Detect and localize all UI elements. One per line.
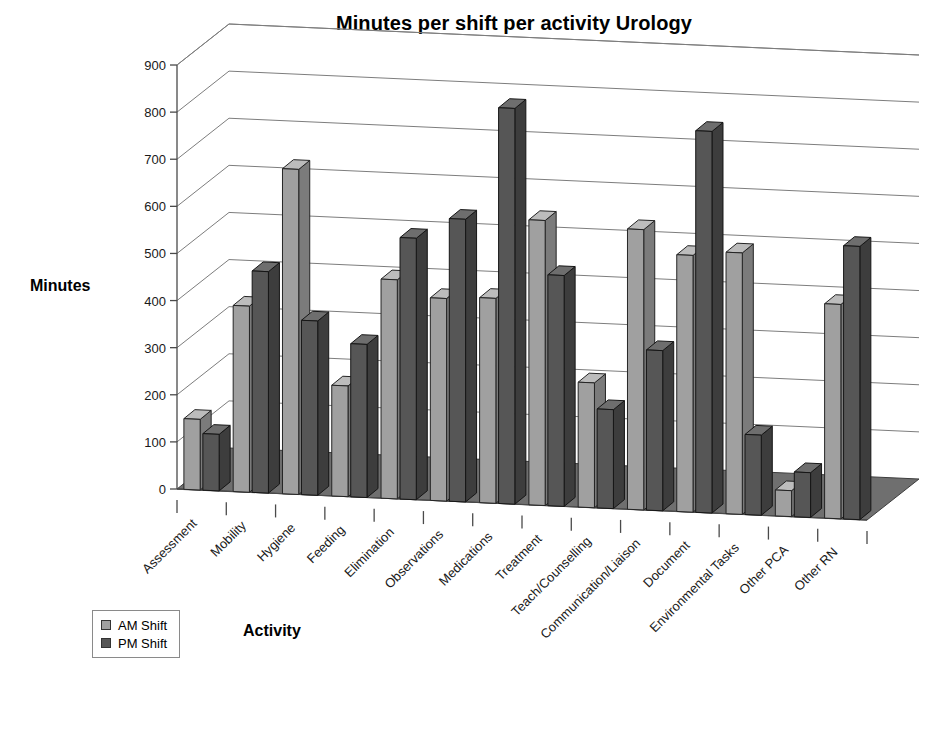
- y-tick-labels: 0100200300400500600700800900: [144, 58, 166, 497]
- bar-pm: [351, 335, 378, 498]
- category-label: Feeding: [304, 522, 348, 566]
- chart-legend: AM Shift PM Shift: [92, 610, 180, 658]
- category-label: Mobility: [207, 517, 249, 559]
- svg-text:500: 500: [144, 246, 166, 261]
- svg-text:900: 900: [144, 58, 166, 73]
- category-label: Communication/Liaison: [537, 536, 643, 642]
- svg-text:800: 800: [144, 105, 166, 120]
- bar-pm: [400, 229, 427, 500]
- bar-pm: [745, 425, 772, 515]
- bar-pm: [301, 311, 328, 495]
- category-label: Other RN: [791, 544, 840, 593]
- bar-pm: [646, 341, 673, 511]
- svg-text:200: 200: [144, 388, 166, 403]
- bar-pm: [597, 400, 624, 509]
- svg-text:700: 700: [144, 152, 166, 167]
- legend-swatch-am-icon: [101, 620, 111, 630]
- category-label: Elimination: [341, 524, 397, 580]
- svg-text:600: 600: [144, 199, 166, 214]
- bars-group: [184, 99, 871, 520]
- category-label: Environmental Tasks: [647, 540, 743, 636]
- category-label: Assessment: [139, 515, 200, 576]
- category-labels: AssessmentMobilityHygieneFeedingEliminat…: [139, 500, 867, 642]
- category-label: Hygiene: [254, 520, 298, 564]
- bar-pm: [794, 463, 821, 517]
- bar-pm: [252, 262, 279, 493]
- bar-pm: [548, 266, 575, 507]
- bar-pm: [696, 122, 723, 513]
- legend-label-am: AM Shift: [118, 619, 167, 632]
- bar-pm: [844, 237, 871, 520]
- legend-item-am: AM Shift: [101, 616, 167, 634]
- legend-label-pm: PM Shift: [118, 637, 167, 650]
- legend-swatch-pm-icon: [101, 638, 111, 648]
- svg-text:400: 400: [144, 294, 166, 309]
- chart-container: Minutes per shift per activity Urology M…: [0, 0, 948, 732]
- bar-pm: [449, 210, 476, 502]
- category-label: Other PCA: [736, 542, 791, 597]
- bar-pm: [499, 99, 526, 504]
- category-label: Treatment: [493, 531, 545, 583]
- bar-pm: [203, 425, 230, 491]
- svg-text:100: 100: [144, 435, 166, 450]
- legend-item-pm: PM Shift: [101, 634, 167, 652]
- svg-text:0: 0: [159, 482, 166, 497]
- svg-text:300: 300: [144, 341, 166, 356]
- category-label: Document: [640, 537, 693, 590]
